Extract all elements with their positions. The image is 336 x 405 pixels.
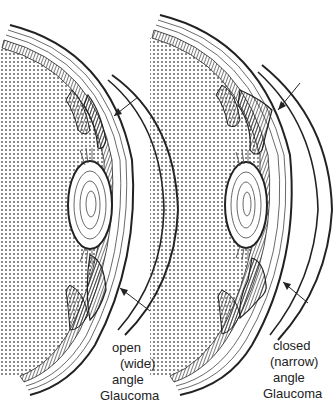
label-line: (narrow): [270, 354, 322, 370]
label-line: (wide): [112, 356, 159, 372]
label-line: angle: [273, 370, 322, 386]
label-open-angle-glaucoma: open (wide) angle Glaucoma: [112, 340, 159, 404]
lens-icon: [225, 162, 267, 248]
lens-icon: [68, 161, 112, 249]
label-line: Glaucoma: [263, 386, 322, 402]
label-closed-angle-glaucoma: closed (narrow) angle Glaucoma: [273, 338, 322, 402]
arrow-lower-closed: [283, 282, 308, 303]
label-line: Glaucoma: [100, 388, 159, 404]
label-line: closed: [273, 338, 322, 354]
arrow-upper-open: [114, 97, 138, 116]
label-line: open: [112, 340, 159, 356]
label-line: angle: [112, 372, 159, 388]
